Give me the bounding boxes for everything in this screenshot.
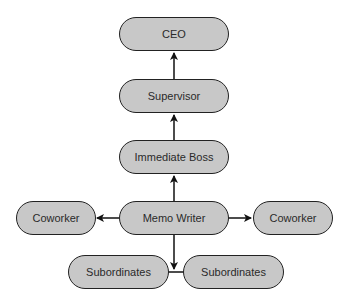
node-coworker-left: Coworker	[16, 201, 96, 235]
node-coworker-right: Coworker	[253, 201, 333, 235]
node-supervisor: Supervisor	[119, 79, 229, 113]
node-supervisor-label: Supervisor	[148, 90, 201, 102]
node-subordinates-left-label: Subordinates	[86, 266, 151, 278]
node-memo-writer-label: Memo Writer	[143, 212, 206, 224]
node-coworker-left-label: Coworker	[32, 212, 79, 224]
node-memo-writer: Memo Writer	[119, 201, 229, 235]
node-subordinates-right: Subordinates	[183, 255, 284, 289]
node-subordinates-right-label: Subordinates	[201, 266, 266, 278]
node-immediate-boss: Immediate Boss	[119, 140, 229, 174]
node-ceo-label: CEO	[162, 28, 186, 40]
node-ceo: CEO	[119, 17, 229, 51]
node-immediate-boss-label: Immediate Boss	[135, 151, 214, 163]
node-coworker-right-label: Coworker	[269, 212, 316, 224]
node-subordinates-left: Subordinates	[68, 255, 169, 289]
